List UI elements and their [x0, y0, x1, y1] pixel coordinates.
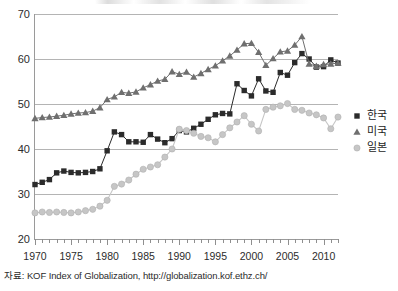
data-point-marker	[278, 70, 283, 75]
legend-item-label: 일본	[367, 142, 387, 153]
x-axis-tick	[158, 239, 159, 243]
data-point-marker	[111, 93, 118, 99]
data-point-marker	[97, 166, 102, 171]
plot-area: 203040506070 197019751980198519901995200…	[34, 14, 338, 240]
x-axis-tick	[165, 239, 166, 243]
x-axis-tick	[49, 239, 50, 243]
x-axis-tick	[179, 239, 180, 245]
data-point-marker	[54, 209, 60, 215]
data-point-marker	[241, 113, 247, 119]
x-axis-tick	[35, 239, 36, 245]
data-point-marker	[285, 73, 290, 78]
data-point-marker	[299, 107, 305, 113]
x-axis-tick-label: 1990	[168, 250, 191, 262]
x-axis-tick	[201, 239, 202, 243]
data-point-marker	[126, 139, 131, 144]
x-axis-tick	[129, 239, 130, 243]
series-line	[35, 104, 338, 213]
legend-item-일본[interactable]: 일본	[352, 142, 387, 153]
data-point-marker	[191, 130, 197, 136]
data-point-marker	[75, 209, 81, 215]
data-point-marker	[234, 119, 240, 125]
data-point-marker	[263, 106, 269, 112]
data-point-marker	[263, 88, 268, 93]
x-axis-tick	[194, 239, 195, 243]
data-point-marker	[32, 210, 38, 216]
x-axis-tick	[259, 239, 260, 243]
x-axis-tick	[324, 239, 325, 245]
x-axis-tick	[114, 239, 115, 243]
data-point-marker	[155, 136, 160, 141]
x-axis-tick	[223, 239, 224, 243]
data-point-marker	[219, 132, 225, 138]
x-axis-tick	[266, 239, 267, 243]
data-point-marker	[168, 68, 175, 74]
data-point-marker	[47, 177, 52, 182]
data-point-marker	[155, 162, 161, 168]
data-point-marker	[32, 182, 37, 187]
y-axis-tick-label: 60	[18, 53, 30, 65]
x-axis-tick	[237, 239, 238, 243]
data-point-marker	[205, 66, 212, 72]
data-point-marker	[118, 89, 125, 95]
legend-item-label: 한국	[367, 110, 387, 121]
data-point-marker	[270, 104, 276, 110]
x-axis-tick-label: 1970	[23, 250, 46, 262]
x-axis-tick	[280, 239, 281, 243]
data-point-marker	[183, 127, 189, 133]
data-point-marker	[270, 90, 275, 95]
legend-item-한국[interactable]: 한국	[352, 110, 387, 121]
data-point-marker	[248, 121, 254, 127]
x-axis-tick	[71, 239, 72, 245]
series-group	[35, 14, 338, 239]
data-point-marker	[104, 197, 110, 203]
x-axis-tick	[316, 239, 317, 243]
x-axis-tick-label: 1975	[59, 250, 82, 262]
data-point-marker	[292, 60, 297, 65]
x-axis-tick	[93, 239, 94, 243]
data-point-marker	[176, 126, 182, 132]
x-axis-tick	[42, 239, 43, 243]
data-point-marker	[46, 209, 52, 215]
data-point-marker	[299, 51, 304, 56]
data-point-marker	[198, 122, 203, 127]
data-point-marker	[126, 177, 132, 183]
source-caption: 자료: KOF Index of Globalization, http://g…	[4, 268, 267, 282]
data-point-marker	[249, 93, 254, 98]
data-point-marker	[133, 171, 139, 177]
x-axis-tick	[273, 239, 274, 243]
x-axis-tick	[136, 239, 137, 243]
series-일본	[32, 100, 341, 216]
data-point-marker	[104, 148, 109, 153]
series-line	[35, 37, 338, 119]
data-point-marker	[306, 110, 312, 116]
data-point-marker	[328, 126, 334, 132]
x-axis-tick	[288, 239, 289, 245]
cropped-title-remnant	[95, 0, 310, 4]
data-point-marker	[68, 170, 73, 175]
legend-item-미국[interactable]: 미국	[352, 126, 387, 137]
data-point-marker	[212, 62, 219, 68]
y-axis-tick-label: 40	[18, 143, 30, 155]
data-point-marker	[248, 40, 255, 46]
data-point-marker	[220, 111, 225, 116]
data-point-marker	[39, 209, 45, 215]
x-axis-tick	[78, 239, 79, 243]
data-point-marker	[112, 129, 117, 134]
data-point-marker	[242, 88, 247, 93]
square-marker	[352, 111, 362, 121]
x-axis-tick	[100, 239, 101, 243]
data-point-marker	[82, 208, 88, 214]
data-point-marker	[148, 132, 153, 137]
data-point-marker	[89, 108, 96, 114]
x-axis-tick	[331, 239, 332, 243]
x-axis-tick	[215, 239, 216, 245]
data-point-marker	[256, 76, 261, 81]
data-point-marker	[76, 170, 81, 175]
data-point-marker	[141, 140, 146, 145]
data-point-marker	[61, 209, 67, 215]
data-point-marker	[227, 125, 233, 131]
data-point-marker	[162, 140, 167, 145]
data-point-marker	[147, 81, 154, 87]
data-point-marker	[90, 169, 95, 174]
